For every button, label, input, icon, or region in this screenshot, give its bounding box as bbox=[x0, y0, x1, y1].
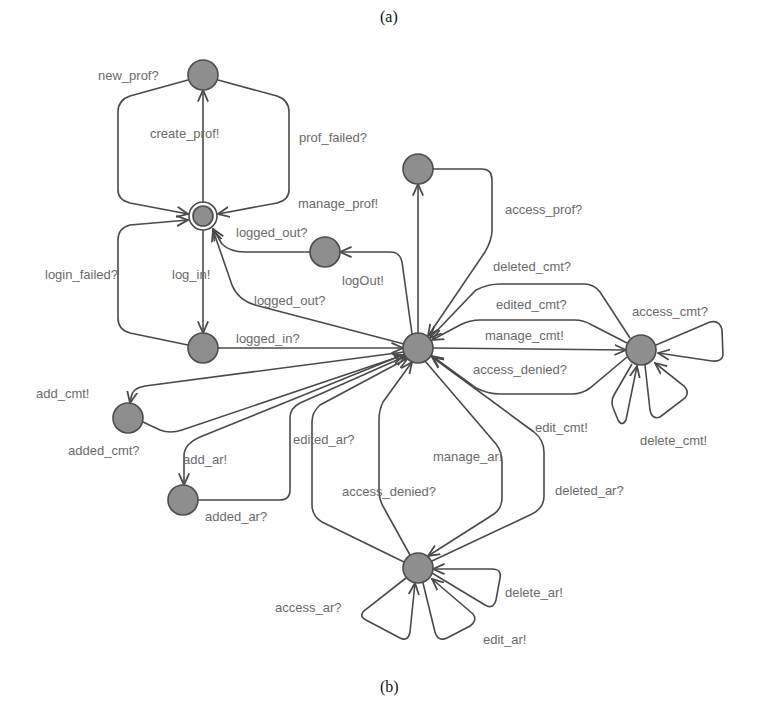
label-prof-failed: prof_failed? bbox=[299, 130, 367, 145]
edge-new-prof bbox=[118, 80, 188, 214]
label-access-cmt: access_cmt? bbox=[632, 304, 708, 319]
label-login-failed: login_failed? bbox=[45, 267, 118, 282]
edge-added-cmt bbox=[143, 355, 404, 432]
label-edit-cmt: edit_cmt! bbox=[535, 420, 588, 435]
edge-edit-cmt bbox=[612, 364, 637, 424]
label-logged-out-2: logged_out? bbox=[254, 293, 326, 308]
label-new-prof: new_prof? bbox=[98, 68, 159, 83]
node-hub bbox=[403, 333, 433, 363]
label-edited-cmt: edited_cmt? bbox=[496, 297, 567, 312]
label-log-in: log_in! bbox=[172, 267, 210, 282]
edge-access-denied-ar bbox=[379, 362, 412, 555]
node-added-ar bbox=[168, 485, 198, 515]
label-logged-out-1: logged_out? bbox=[236, 225, 308, 240]
label-delete-ar: delete_ar! bbox=[505, 585, 563, 600]
edge-delete-ar-2 bbox=[423, 579, 475, 639]
edge-access-ar bbox=[362, 578, 415, 639]
caption-b: (b) bbox=[380, 678, 399, 696]
node-added-cmt bbox=[113, 403, 143, 433]
state-machine-diagram: (a) (b) bbox=[0, 0, 770, 708]
node-logged-out bbox=[310, 237, 340, 267]
label-add-ar: add_ar! bbox=[183, 452, 227, 467]
node-init bbox=[193, 206, 213, 226]
node-logged-in bbox=[188, 333, 218, 363]
label-access-ar: access_ar? bbox=[275, 600, 341, 615]
node-ar bbox=[403, 553, 433, 583]
label-logged-in: logged_in? bbox=[236, 331, 300, 346]
edge-added-ar bbox=[198, 356, 406, 500]
label-manage-ar: manage_ar! bbox=[433, 449, 502, 464]
label-manage-cmt: manage_cmt! bbox=[485, 328, 564, 343]
node-new-prof bbox=[188, 60, 218, 90]
label-access-denied-ar: access_denied? bbox=[342, 484, 436, 499]
edge-manage-cmt bbox=[433, 348, 626, 350]
label-edit-ar: edit_ar! bbox=[483, 632, 526, 647]
label-deleted-cmt: deleted_cmt? bbox=[493, 259, 571, 274]
label-logout: logOut! bbox=[342, 273, 384, 288]
label-delete-cmt: delete_cmt! bbox=[640, 433, 707, 448]
edge-login-failed bbox=[118, 220, 188, 345]
edge-prof-failed bbox=[218, 80, 289, 214]
label-create-prof: create_prof! bbox=[150, 126, 219, 141]
edge-delete-cmt bbox=[645, 363, 687, 418]
edge-access-cmt bbox=[656, 322, 723, 361]
label-add-cmt: add_cmt! bbox=[36, 386, 89, 401]
node-cmt bbox=[626, 335, 656, 365]
edge-logout bbox=[340, 252, 412, 334]
label-access-prof: access_prof? bbox=[505, 202, 582, 217]
label-manage-prof: manage_prof! bbox=[298, 196, 378, 211]
label-deleted-ar: deleted_ar? bbox=[555, 483, 624, 498]
caption-a: (a) bbox=[380, 8, 398, 26]
label-added-ar: added_ar? bbox=[205, 509, 267, 524]
label-access-denied-cmt: access_denied? bbox=[473, 362, 567, 377]
label-edited-ar: edited_ar? bbox=[293, 432, 354, 447]
edge-access-prof bbox=[428, 169, 492, 336]
node-prof bbox=[403, 154, 433, 184]
label-added-cmt: added_cmt? bbox=[68, 443, 140, 458]
edge-add-cmt bbox=[130, 352, 404, 403]
